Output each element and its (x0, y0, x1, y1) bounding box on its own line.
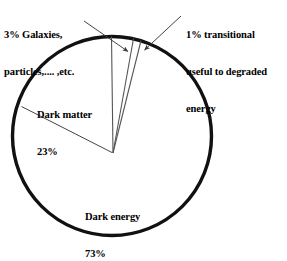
slice-label-transitional-line2: useful to degraded (186, 66, 267, 78)
slice-label-transitional: 1% transitional useful to degraded energ… (186, 4, 267, 140)
leader-line-transitional (145, 16, 182, 50)
slice-label-dark-energy-percent: 73% (85, 248, 140, 260)
slice-label-dark-matter-name: Dark matter (37, 109, 92, 121)
slice-label-dark-matter: Dark matter 23% (37, 84, 92, 183)
slice-label-galaxies-line1: 3% Galaxies, (4, 29, 74, 41)
slice-label-transitional-line1: 1% transitional (186, 29, 267, 41)
slice-label-galaxies-line2: particles,.... ,etc. (4, 66, 74, 78)
slice-label-dark-energy: Dark energy 73% (85, 186, 140, 261)
slice-label-dark-matter-percent: 23% (37, 146, 92, 158)
slice-label-transitional-line3: energy (186, 103, 267, 115)
slice-label-dark-energy-name: Dark energy (85, 211, 140, 223)
